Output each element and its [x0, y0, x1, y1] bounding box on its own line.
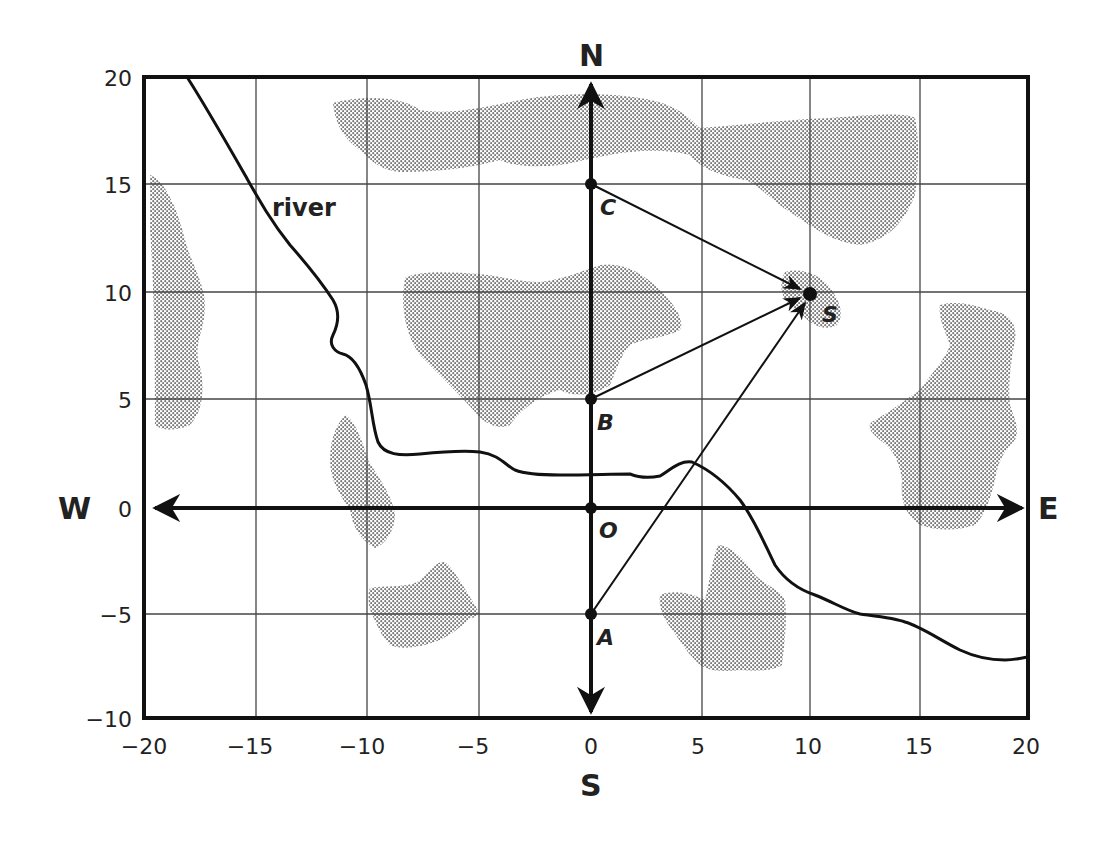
x-tick: −5 [457, 734, 489, 759]
river-label: river [272, 194, 336, 222]
x-tick: 15 [905, 734, 933, 759]
shaded-region-lower-right [660, 545, 786, 671]
compass-east: E [1038, 491, 1059, 526]
point-c-label: C [600, 195, 616, 220]
x-tick: 5 [691, 734, 705, 759]
y-tick: 20 [104, 66, 132, 91]
shaded-region-right [870, 303, 1018, 530]
point-s-marker [803, 287, 817, 301]
shaded-region-small-left [330, 415, 395, 548]
shaded-region-lower-left [369, 562, 478, 648]
shaded-region-top [333, 94, 918, 245]
x-tick: −15 [227, 734, 273, 759]
y-tick: −10 [86, 707, 132, 732]
point-o-label: O [599, 518, 618, 543]
point-c-marker [585, 178, 597, 190]
point-o-marker [585, 502, 597, 514]
shaded-region-center [403, 264, 681, 427]
x-tick-labels: −20 −15 −10 −5 0 5 10 15 20 [121, 734, 1040, 759]
shaded-regions [150, 94, 1017, 671]
y-tick: 15 [104, 173, 132, 198]
compass-south: S [580, 768, 602, 803]
y-tick: 5 [118, 388, 132, 413]
y-tick: 10 [104, 281, 132, 306]
point-b-marker [585, 393, 597, 405]
point-s-label: S [822, 302, 838, 327]
y-tick-labels: 20 15 10 5 0 −5 −10 [86, 66, 132, 732]
shaded-region-left [150, 175, 205, 430]
x-tick: 0 [584, 734, 598, 759]
x-tick: 10 [794, 734, 822, 759]
point-a-label: A [595, 625, 614, 650]
x-tick: 20 [1012, 734, 1040, 759]
y-tick: −5 [100, 603, 132, 628]
coordinate-map: C B O A S river N S E W 20 15 10 5 0 −5 … [0, 0, 1110, 849]
compass-north: N [579, 38, 604, 73]
y-tick: 0 [118, 497, 132, 522]
point-a-marker [585, 608, 597, 620]
compass-west: W [58, 491, 91, 526]
point-b-label: B [597, 410, 614, 435]
x-tick: −20 [121, 734, 167, 759]
x-tick: −10 [339, 734, 385, 759]
